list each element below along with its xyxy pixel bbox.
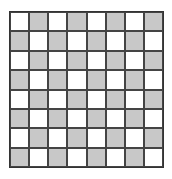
dark-cell xyxy=(106,12,125,31)
light-cell xyxy=(106,70,125,89)
light-cell xyxy=(87,12,106,31)
dark-cell xyxy=(29,51,48,70)
dark-cell xyxy=(10,109,29,128)
light-cell xyxy=(48,128,67,147)
light-cell xyxy=(29,70,48,89)
dark-cell xyxy=(29,128,48,147)
light-cell xyxy=(29,109,48,128)
dark-cell xyxy=(106,51,125,70)
light-cell xyxy=(144,70,163,89)
light-cell xyxy=(48,12,67,31)
dark-cell xyxy=(125,109,144,128)
light-cell xyxy=(106,31,125,50)
light-cell xyxy=(29,148,48,167)
dark-cell xyxy=(29,12,48,31)
checkerboard-grid xyxy=(9,11,164,168)
light-cell xyxy=(106,109,125,128)
dark-cell xyxy=(87,70,106,89)
light-cell xyxy=(144,31,163,50)
dark-cell xyxy=(106,90,125,109)
light-cell xyxy=(10,128,29,147)
light-cell xyxy=(67,148,86,167)
dark-cell xyxy=(48,109,67,128)
dark-cell xyxy=(125,148,144,167)
light-cell xyxy=(106,148,125,167)
dark-cell xyxy=(144,128,163,147)
dark-cell xyxy=(144,12,163,31)
dark-cell xyxy=(67,90,86,109)
dark-cell xyxy=(10,148,29,167)
light-cell xyxy=(87,90,106,109)
dark-cell xyxy=(48,70,67,89)
dark-cell xyxy=(10,31,29,50)
dark-cell xyxy=(10,70,29,89)
light-cell xyxy=(125,90,144,109)
light-cell xyxy=(67,70,86,89)
light-cell xyxy=(125,12,144,31)
light-cell xyxy=(125,128,144,147)
light-cell xyxy=(67,109,86,128)
light-cell xyxy=(10,90,29,109)
dark-cell xyxy=(67,51,86,70)
dark-cell xyxy=(29,90,48,109)
dark-cell xyxy=(125,31,144,50)
light-cell xyxy=(29,31,48,50)
dark-cell xyxy=(125,70,144,89)
light-cell xyxy=(48,90,67,109)
dark-cell xyxy=(87,109,106,128)
light-cell xyxy=(144,148,163,167)
light-cell xyxy=(10,12,29,31)
light-cell xyxy=(67,31,86,50)
dark-cell xyxy=(67,12,86,31)
light-cell xyxy=(144,109,163,128)
light-cell xyxy=(10,51,29,70)
light-cell xyxy=(48,51,67,70)
light-cell xyxy=(87,128,106,147)
dark-cell xyxy=(48,148,67,167)
light-cell xyxy=(125,51,144,70)
dark-cell xyxy=(144,90,163,109)
light-cell xyxy=(87,51,106,70)
dark-cell xyxy=(144,51,163,70)
dark-cell xyxy=(106,128,125,147)
dark-cell xyxy=(87,31,106,50)
dark-cell xyxy=(48,31,67,50)
dark-cell xyxy=(67,128,86,147)
dark-cell xyxy=(87,148,106,167)
